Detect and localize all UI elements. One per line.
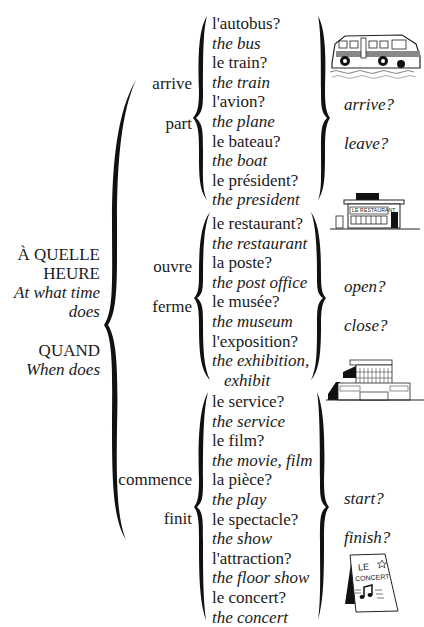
group3-noun-list: le service? the service le film? the mov… [212,392,313,627]
item-fr: la pièce? [212,470,313,490]
group2-left-brace [194,212,210,380]
item-fr: l'avion? [212,92,300,112]
item-en: the post office [212,273,309,293]
translation-start: start? [344,489,384,509]
item-fr: le film? [212,431,313,451]
a-quelle-heure-line1: À QUELLE [0,245,100,264]
item-en: the president [212,190,300,210]
verb-ouvre: ouvre [153,257,192,277]
translation-leave: leave? [344,134,388,154]
item-en: the exhibition, [212,351,309,371]
verb-arrive: arrive [152,74,192,94]
restaurant-sign-text: LE RESTAURANT [352,207,396,213]
item-en: the play [212,490,313,510]
quand-translation: When does [0,360,100,379]
item-en-continued: exhibit [212,371,309,391]
group3-left-brace [194,392,208,620]
item-en: the bus [212,34,300,54]
group3-right-brace [317,392,329,620]
item-fr: la poste? [212,253,309,273]
item-fr: l'exposition? [212,332,309,352]
translation-close: close? [344,316,387,336]
item-fr: le bateau? [212,132,300,152]
group2-noun-list: le restaurant? the restaurant la poste? … [212,214,309,390]
item-en: the concert [212,608,313,627]
item-en: the movie, film [212,451,313,471]
question-a-quelle-heure: À QUELLE HEURE At what time does [0,245,100,321]
museum-illustration [326,360,424,400]
item-en: the restaurant [212,234,309,254]
item-en: the show [212,529,313,549]
a-quelle-heure-line2: HEURE [0,264,100,283]
a-quelle-heure-translation-line2: does [0,302,100,321]
item-fr: l'autobus? [212,14,300,34]
bus-illustration [330,35,420,79]
item-en: the floor show [212,568,313,588]
question-quand: QUAND When does [0,341,100,379]
concert-poster-illustration [345,554,398,612]
verb-ferme: ferme [152,297,192,317]
item-fr: le concert? [212,588,313,608]
concert-le-text: LE [358,562,370,573]
verb-finit: finit [164,509,192,529]
item-fr: le musée? [212,292,309,312]
item-fr: le train? [212,53,300,73]
group1-right-brace [318,16,330,200]
quand-label: QUAND [0,341,100,360]
item-fr: le spectacle? [212,510,313,530]
verb-part: part [166,114,192,134]
item-fr: le restaurant? [212,214,309,234]
translation-arrive: arrive? [344,95,394,115]
translation-finish: finish? [344,528,390,548]
group2-right-brace [311,212,326,380]
item-en: the service [212,412,313,432]
verb-commence: commence [118,470,192,490]
item-fr: l'attraction? [212,549,313,569]
item-en: the boat [212,151,300,171]
group1-left-brace [193,16,207,200]
item-fr: le président? [212,171,300,191]
translation-open: open? [344,277,386,297]
item-en: the train [212,73,300,93]
item-en: the museum [212,312,309,332]
item-fr: le service? [212,392,313,412]
a-quelle-heure-translation-line1: At what time [0,283,100,302]
group1-noun-list: l'autobus? the bus le train? the train l… [212,14,300,210]
item-en: the plane [212,112,300,132]
